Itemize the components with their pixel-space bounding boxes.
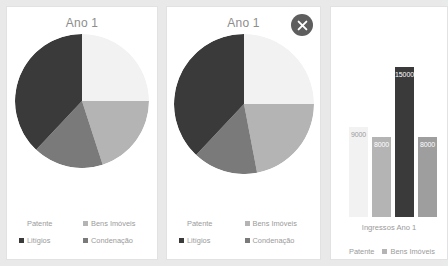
legend-item-patente-3[interactable]: Patente	[341, 247, 374, 256]
legend-item-bens-imoveis-2[interactable]: Bens Imóveis	[245, 219, 309, 228]
bar-column: 15000	[395, 67, 414, 217]
legend-label-condenacao: Condenação	[91, 236, 133, 245]
pie-chart-2-svg	[174, 34, 314, 174]
legend-item-bens-imoveis[interactable]: Bens Imóveis	[83, 219, 145, 228]
legend-label-patente-2: Patente	[187, 219, 212, 228]
legend-label-litigios: Litígios	[27, 236, 50, 245]
pie-slice-patente[interactable]	[244, 34, 314, 104]
legend-item-bens-imoveis-3[interactable]: Bens Imóveis	[382, 247, 434, 256]
bar-litígios[interactable]	[395, 67, 414, 217]
pie-panel-2: Ano 1 Patente Bens Imóveis Litígios	[166, 6, 321, 260]
legend-item-patente-2[interactable]: Patente	[179, 219, 243, 228]
close-icon	[297, 20, 308, 31]
legend-item-condenacao-2[interactable]: Condenação	[245, 236, 309, 245]
bar-condenação[interactable]	[418, 137, 437, 217]
pie-chart-2	[174, 34, 314, 174]
legend-swatch-bens-imoveis-2	[245, 221, 250, 226]
pie-panel-1: Ano 1 Patente Bens Imóveis Litígios Cond…	[6, 6, 158, 260]
bar-chart-xlabel: Ingressos Ano 1	[331, 223, 447, 232]
legend-swatch-bens-imoveis-3	[382, 249, 387, 254]
bar-chart: 90008000150008000	[343, 47, 443, 217]
pie-chart-1	[15, 34, 149, 168]
legend-swatch-condenacao	[83, 238, 88, 243]
legend-label-patente-3: Patente	[349, 247, 374, 256]
bar-patente[interactable]	[349, 127, 368, 217]
legend-swatch-bens-imoveis	[83, 221, 88, 226]
legend-label-bens-imoveis: Bens Imóveis	[91, 219, 135, 228]
legend-item-litigios-2[interactable]: Litígios	[179, 236, 243, 245]
legend-3: Patente Bens Imóveis	[341, 247, 447, 256]
legend-1: Patente Bens Imóveis Litígios Condenação	[7, 219, 157, 245]
legend-2: Patente Bens Imóveis Litígios Condenação	[167, 219, 320, 245]
legend-label-litigios-2: Litígios	[187, 236, 210, 245]
bar-column: 8000	[372, 137, 391, 217]
bar-panel: 90008000150008000 Ingressos Ano 1 Patent…	[330, 6, 448, 260]
bar-column: 8000	[418, 137, 437, 217]
legend-item-condenacao[interactable]: Condenação	[83, 236, 145, 245]
bar-column: 9000	[349, 127, 368, 217]
page-title: Ano 1	[7, 16, 157, 30]
legend-item-patente[interactable]: Patente	[19, 219, 81, 228]
bar-chart-bars: 90008000150008000	[343, 47, 443, 217]
legend-swatch-litigios	[19, 238, 24, 243]
pie-slice-patente[interactable]	[82, 34, 149, 101]
legend-label-bens-imoveis-2: Bens Imóveis	[253, 219, 297, 228]
bar-bens-imóveis[interactable]	[372, 137, 391, 217]
legend-swatch-litigios-2	[179, 238, 184, 243]
legend-item-litigios[interactable]: Litígios	[19, 236, 81, 245]
legend-swatch-condenacao-2	[245, 238, 250, 243]
pie-chart-1-svg	[15, 34, 149, 168]
legend-label-bens-imoveis-3: Bens Imóveis	[390, 247, 434, 256]
legend-label-patente: Patente	[27, 219, 52, 228]
legend-label-condenacao-2: Condenação	[253, 236, 295, 245]
close-button[interactable]	[291, 14, 313, 36]
